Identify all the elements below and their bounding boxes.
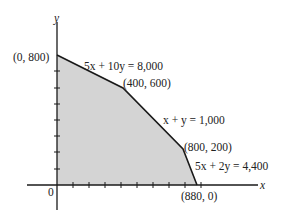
constraint-label-3: 5x + 2y = 4,400 [195, 160, 269, 173]
vertex-label-800-200: (800, 200) [184, 141, 232, 154]
vertex-label-0-800: (0, 800) [13, 51, 50, 64]
feasible-region-diagram: y x 0 (0, 800) (400, 600) (800, 200) (88… [0, 0, 281, 224]
vertex-label-400-600: (400, 600) [123, 77, 171, 90]
constraint-label-1: 5x + 10y = 8,000 [84, 60, 163, 73]
vertex-label-880-0: (880, 0) [181, 190, 218, 203]
origin-label: 0 [48, 186, 54, 198]
x-axis-label: x [259, 179, 266, 191]
y-axis-label: y [53, 12, 60, 25]
constraint-label-2: x + y = 1,000 [163, 114, 225, 127]
